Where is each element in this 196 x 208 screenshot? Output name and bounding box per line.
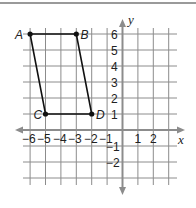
svg-text:−3: −3 (68, 132, 82, 146)
svg-text:2: 2 (111, 92, 118, 106)
x-tick-labels: −6 −5 −4 −3 −2 −1 1 2 (22, 132, 157, 146)
svg-text:−2: −2 (84, 132, 98, 146)
grid-lines (23, 28, 177, 185)
svg-text:−5: −5 (37, 132, 51, 146)
point-b-label: B (81, 28, 89, 42)
y-axis-label: y (126, 12, 134, 27)
svg-text:−1: −1 (106, 140, 120, 154)
point-d-label: D (96, 108, 105, 122)
svg-text:−6: −6 (22, 132, 36, 146)
point-a-label: A (14, 28, 23, 42)
y-axis-down-arrow-icon (119, 187, 126, 195)
y-axis-up-arrow-icon (119, 19, 126, 27)
svg-text:3: 3 (111, 76, 118, 90)
svg-text:6: 6 (111, 28, 118, 42)
svg-text:1: 1 (135, 132, 142, 146)
svg-text:−4: −4 (53, 132, 67, 146)
svg-text:2: 2 (150, 132, 157, 146)
coordinate-plane: y x −6 −5 −4 −3 −2 −1 1 2 6 5 4 3 2 1 −1… (0, 0, 196, 208)
svg-text:5: 5 (111, 44, 118, 58)
svg-text:1: 1 (111, 108, 118, 122)
x-axis-label: x (177, 132, 184, 147)
point-c-label: C (34, 108, 43, 122)
y-axis (119, 19, 126, 195)
svg-text:4: 4 (111, 60, 118, 74)
svg-text:−2: −2 (106, 156, 120, 170)
